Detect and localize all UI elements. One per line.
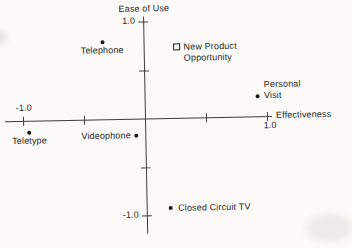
y-axis-tick xyxy=(141,167,151,168)
scan-artifact xyxy=(0,31,7,43)
x-tick-label-left: -1.0 xyxy=(16,103,32,114)
y-tick-label-top: 1.0 xyxy=(115,16,135,27)
new-product-opportunity-label: New ProductOpportunity xyxy=(183,40,237,63)
x-axis-line xyxy=(5,116,272,122)
x-axis-tick xyxy=(23,117,24,126)
y-axis-tick xyxy=(138,21,148,22)
y-axis-tick xyxy=(139,70,149,71)
x-axis-tick xyxy=(267,112,268,121)
x-axis-title: Effectiveness xyxy=(276,109,332,121)
videophone-label: Videophone xyxy=(81,131,131,143)
scan-artifact xyxy=(306,214,352,243)
y-axis-line xyxy=(143,16,148,233)
y-axis-title: Ease of Use xyxy=(118,3,169,15)
y-axis-tick xyxy=(142,215,152,216)
closed-circuit-tv-label: Closed Circuit TV xyxy=(178,201,251,213)
x-axis-tick xyxy=(84,116,85,125)
teletype-label: Teletype xyxy=(12,135,47,147)
new-product-opportunity-marker xyxy=(173,43,180,50)
personal-visit-marker xyxy=(256,94,260,98)
perceptual-map-figure: Ease of Use Effectiveness 1.0 -1.0 -1.0 … xyxy=(0,0,342,240)
y-tick-label-bottom: -1.0 xyxy=(109,210,139,222)
telephone-marker xyxy=(100,41,104,45)
telephone-label: Telephone xyxy=(81,45,124,57)
closed-circuit-tv-marker xyxy=(169,206,173,210)
videophone-marker xyxy=(135,134,139,138)
personal-visit-label: PersonalVisit xyxy=(264,79,301,102)
x-axis-tick xyxy=(206,113,207,122)
teletype-marker xyxy=(27,130,31,134)
x-tick-label-right: 1.0 xyxy=(264,120,277,131)
